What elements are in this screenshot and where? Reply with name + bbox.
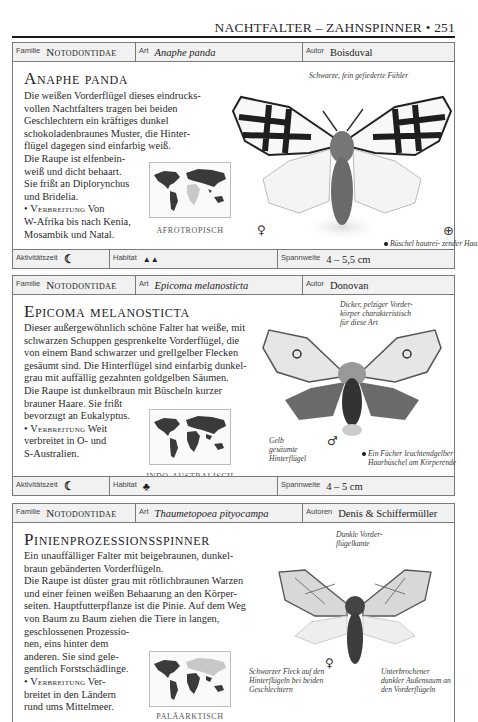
spannweite-label: Spannweite	[281, 253, 320, 262]
leader-dot-icon	[384, 242, 388, 246]
text-line: Geschlechtern ein kräftiges dunkel	[24, 115, 201, 128]
annotation-text: Schwarzer Fleck auf den Hinterflügeln be…	[249, 667, 329, 694]
text-line: Die Raupe ist dunkelbraun mit Büscheln k…	[24, 385, 246, 398]
familie-label: Familie	[16, 46, 40, 55]
aktivitaetszeit-label: Aktivitätszeit	[16, 480, 58, 489]
autor-value: Boisduval	[330, 47, 373, 58]
distribution-label: Verbreitung	[30, 203, 85, 214]
spannweite-value: 4 – 5,5 cm	[326, 254, 370, 265]
annotation-aussensaum: Unterbrochener dunkler Außensaum an den …	[381, 667, 451, 694]
entry-card-epicoma-melanosticta: Familie Notodontidae Art Epicoma melanos…	[12, 275, 455, 496]
distribution-label: Verbreitung	[30, 423, 85, 434]
species-title: Pinienprozessionsspinner	[24, 530, 210, 550]
region-label: AFROTROPISCH	[149, 226, 231, 235]
entry-card-thaumetopoea-pityocampa: Familie Notodontidae Art Thaumetopoea pi…	[12, 503, 455, 722]
spannweite-value: 4 – 5 cm	[326, 481, 362, 492]
zoom-in-icon[interactable]: ⊕	[443, 223, 454, 238]
entry-card-anaphe-panda: Familie Notodontidae Art Anaphe panda Au…	[12, 42, 455, 269]
art-cell: Art Epicoma melanosticta	[136, 276, 303, 294]
region-label: PALÄARKTISCH	[149, 712, 231, 721]
familie-value: Notodontidae	[46, 279, 116, 291]
world-map-icon	[150, 410, 230, 464]
thaumetopoea-pityocampa-image	[275, 564, 435, 674]
text-line: und einer feinen weißen Behaarung an den…	[24, 588, 246, 601]
annotation-text: Gelb gesäumte Hinterflügel	[269, 436, 313, 463]
habitat-cell: Habitat ▲▲	[110, 250, 278, 268]
entry-header-row: Familie Notodontidae Art Thaumetopoea pi…	[13, 504, 454, 523]
annotation-haarschuppen: Büschel hautrei- zender Haarschuppen	[384, 239, 478, 248]
entry-footer-row: Aktivitätszeit ☾ Habitat ▲▲ Spannweite 4…	[13, 249, 454, 268]
autoren-cell: Autoren Denis & Schiffermüller	[303, 504, 454, 522]
text-line: Ver-	[88, 676, 106, 687]
annotation-text: Dunkle Vorder- flügelkante	[336, 530, 386, 548]
text-line: Ein unauffälliger Falter mit beigebraune…	[24, 550, 246, 563]
art-label: Art	[139, 507, 149, 516]
text-line: von einem Band schwarzer und grellgelber…	[24, 347, 246, 360]
autor-cell: Autor Boisduval	[303, 43, 454, 61]
art-cell: Art Anaphe panda	[136, 43, 303, 61]
world-map-icon	[150, 163, 230, 217]
text-line: nen, eins hinter dem	[24, 638, 246, 651]
text-line: braun gebänderten Vorderflügeln.	[24, 563, 246, 576]
art-label: Art	[139, 279, 149, 288]
text-line: von Baum zu Baum ziehen die Tiere in lan…	[24, 613, 246, 626]
autoren-label: Autoren	[306, 507, 332, 516]
aktivitaetszeit-cell: Aktivitätszeit ☾	[13, 250, 110, 268]
distribution-label: Verbreitung	[30, 676, 85, 687]
annotation-text: Büschel hautrei- zender Haarschuppen	[390, 239, 478, 248]
male-symbol-icon: ♂	[327, 434, 338, 448]
annotation-vorderkoerper: Dicker, pelziger Vorder- körper charakte…	[340, 300, 420, 327]
habitat-label: Habitat	[113, 480, 137, 489]
annotation-vorderfluegelkante: Dunkle Vorder- flügelkante	[336, 530, 386, 548]
aktivitaetszeit-cell: Aktivitätszeit ☾	[13, 477, 110, 495]
habitat-cell: Habitat ♣	[110, 477, 278, 495]
text-line: Weit	[88, 423, 107, 434]
text-line: schokoladenbraunes Muster, die Hinter-	[24, 128, 201, 141]
spannweite-cell: Spannweite 4 – 5,5 cm	[278, 250, 454, 268]
female-symbol-icon: ♀	[325, 656, 334, 670]
text-line: vollen Nachtfalters tragen bei beiden	[24, 103, 201, 116]
annotation-fuehler: Schwarze, fein gefiederte Fühler	[309, 71, 408, 80]
aktivitaetszeit-label: Aktivitätszeit	[16, 253, 58, 262]
text-line: schwarzen Schuppen gesprenkelte Vorderfl…	[24, 335, 246, 348]
autoren-value: Denis & Schiffermüller	[338, 508, 437, 519]
familie-label: Familie	[16, 279, 40, 288]
annotation-text: Ein Fächer leuchtendgelber Haarbüschel a…	[368, 449, 458, 467]
distribution-map-afrotropical	[149, 162, 231, 218]
familie-cell: Familie Notodontidae	[13, 504, 136, 522]
art-value: Anaphe panda	[155, 47, 216, 58]
familie-value: Notodontidae	[46, 46, 116, 58]
running-head: NACHTFALTER – ZAHNSPINNER • 251	[12, 12, 455, 38]
annotation-schwarzer-fleck: Schwarzer Fleck auf den Hinterflügeln be…	[249, 667, 329, 694]
habitat-label: Habitat	[113, 253, 137, 262]
art-value: Epicoma melanosticta	[155, 280, 249, 291]
familie-value: Notodontidae	[46, 507, 116, 519]
autor-label: Autor	[306, 279, 324, 288]
text-line: Die weißen Vorderflügel dieses eindrucks…	[24, 90, 201, 103]
entry-footer-row: Aktivitätszeit ☾ Habitat ♣ Spannweite 4 …	[13, 476, 454, 495]
leader-dot-icon	[362, 452, 366, 456]
art-value: Thaumetopoea pityocampa	[155, 508, 269, 519]
spannweite-label: Spannweite	[281, 480, 320, 489]
moon-icon: ☾	[64, 479, 75, 494]
spannweite-cell: Spannweite 4 – 5 cm	[278, 477, 454, 495]
annotation-text: Unterbrochener dunkler Außensaum an den …	[381, 667, 451, 694]
female-symbol-icon: ♀	[257, 223, 266, 237]
autor-label: Autor	[306, 46, 324, 55]
distribution-map-palearctic	[149, 651, 231, 707]
autor-value: Donovan	[330, 280, 369, 291]
savanna-icon: ▲▲	[143, 255, 159, 264]
art-cell: Art Thaumetopoea pityocampa	[136, 504, 303, 522]
entry-header-row: Familie Notodontidae Art Epicoma melanos…	[13, 276, 454, 295]
distribution-map-indo-australian	[149, 409, 231, 465]
text-line: gesäumt sind. Die Hinterflügel sind einf…	[24, 360, 246, 373]
text-line: seiten. Hauptfutterpflanze ist die Pinie…	[24, 600, 246, 613]
text-line: geschlossenen Prozessio-	[24, 626, 246, 639]
familie-label: Familie	[16, 507, 40, 516]
autor-cell: Autor Donovan	[303, 276, 454, 294]
familie-cell: Familie Notodontidae	[13, 276, 136, 294]
epicoma-melanosticta-image	[259, 316, 445, 446]
world-map-icon	[150, 652, 230, 706]
annotation-text: Dicker, pelziger Vorder- körper charakte…	[340, 300, 420, 327]
familie-cell: Familie Notodontidae	[13, 43, 136, 61]
